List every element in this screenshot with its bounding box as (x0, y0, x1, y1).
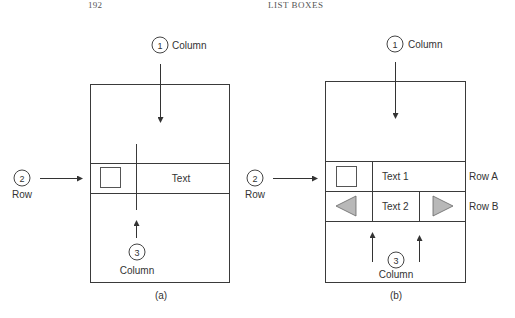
figure-b: Text 1 Row A Text 2 Row B 1 Column (245, 36, 499, 301)
right-triangle-icon (433, 196, 453, 216)
callout-3-column: 3 Column (120, 221, 154, 276)
row-label: Row A (469, 171, 498, 182)
checkbox-icon (101, 168, 121, 188)
callout-label: Column (379, 269, 413, 280)
list-row-a: Text (90, 164, 229, 194)
callout-label: Column (172, 40, 206, 51)
figure-a: Text 1 Column 2 Row 3 (12, 37, 230, 301)
callout-number: 1 (392, 40, 397, 50)
callout-label: Column (120, 265, 154, 276)
row-text: Text (172, 173, 191, 184)
row-label: Row B (469, 201, 499, 212)
callout-label: Row (12, 189, 33, 200)
callout-number: 2 (19, 174, 24, 184)
callout-1-column: 1 Column (152, 37, 206, 122)
callout-label: Row (245, 189, 266, 200)
callout-1-column: 1 Column (387, 36, 442, 118)
figure-caption-b: (b) (390, 290, 402, 301)
callout-2-row: 2 Row (12, 170, 82, 200)
callout-number: 3 (393, 256, 398, 266)
book-page: 192 LIST BOXES Text 1 Colu (0, 0, 515, 318)
callout-number: 2 (252, 174, 257, 184)
row-text: Text 1 (382, 171, 409, 182)
callout-2-row: 2 Row (245, 170, 317, 200)
row-text: Text 2 (382, 201, 409, 212)
list-row-b: Text 2 Row B (325, 191, 499, 222)
callout-label: Column (408, 39, 442, 50)
checkbox-icon (337, 167, 357, 187)
callout-number: 3 (134, 248, 139, 258)
callout-3-column: 3 Column (373, 233, 420, 280)
list-box-diagram: Text 1 Column 2 Row 3 (0, 0, 515, 318)
figure-caption-a: (a) (155, 290, 167, 301)
callout-number: 1 (157, 41, 162, 51)
left-triangle-icon (336, 196, 356, 216)
